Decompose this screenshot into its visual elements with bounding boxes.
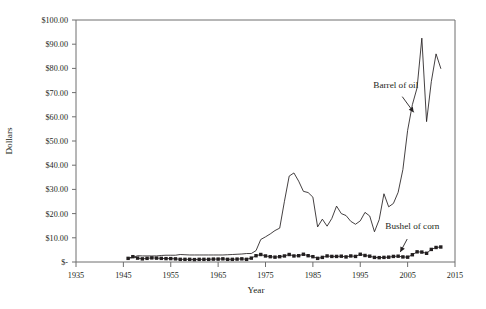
data-point-marker: [160, 257, 163, 260]
data-point-marker: [387, 255, 390, 258]
x-tick-label: 1995: [352, 271, 368, 280]
data-point-marker: [145, 257, 148, 260]
data-point-marker: [363, 254, 366, 257]
data-point-marker: [349, 254, 352, 257]
data-point-marker: [221, 257, 224, 260]
data-point-marker: [382, 256, 385, 259]
data-point-marker: [373, 256, 376, 259]
data-point-marker: [292, 254, 295, 257]
data-point-marker: [411, 253, 414, 256]
data-point-marker: [235, 257, 238, 260]
data-point-marker: [250, 256, 253, 259]
data-point-marker: [359, 253, 362, 256]
data-point-marker: [406, 255, 409, 258]
data-point-marker: [164, 257, 167, 260]
data-point-marker: [344, 255, 347, 258]
y-tick-label: $80.00: [45, 64, 68, 73]
data-point-marker: [273, 255, 276, 258]
data-point-marker: [340, 254, 343, 257]
data-point-marker: [430, 248, 433, 251]
data-point-marker: [420, 250, 423, 253]
data-point-marker: [354, 255, 357, 258]
data-point-marker: [316, 257, 319, 260]
data-point-marker: [126, 257, 129, 260]
y-axis-ticks: $-$10.00$20.00$30.00$40.00$50.00$60.00$7…: [41, 16, 76, 267]
data-point-marker: [240, 257, 243, 260]
data-point-marker: [439, 245, 442, 248]
data-point-marker: [207, 258, 210, 261]
x-tick-label: 2015: [447, 271, 463, 280]
y-tick-label: $40.00: [45, 161, 68, 170]
annotation-label: Bushel of corn: [385, 221, 439, 231]
data-point-marker: [188, 258, 191, 261]
data-point-marker: [378, 256, 381, 259]
data-point-marker: [434, 246, 437, 249]
data-point-marker: [425, 252, 428, 255]
data-point-marker: [216, 257, 219, 260]
data-point-marker: [245, 258, 248, 261]
y-tick-label: $30.00: [45, 185, 68, 194]
data-point-marker: [401, 255, 404, 258]
data-point-marker: [197, 258, 200, 261]
data-point-marker: [174, 257, 177, 260]
data-point-marker: [278, 255, 281, 258]
data-point-marker: [202, 258, 205, 261]
oil-vs-corn-price-chart: $-$10.00$20.00$30.00$40.00$50.00$60.00$7…: [0, 0, 486, 309]
annotation-label: Barrel of oil: [373, 80, 418, 90]
data-point-marker: [306, 254, 309, 257]
data-point-marker: [392, 255, 395, 258]
data-point-marker: [259, 253, 262, 256]
data-point-marker: [330, 255, 333, 258]
data-point-marker: [226, 258, 229, 261]
data-point-marker: [155, 256, 158, 259]
data-point-marker: [183, 258, 186, 261]
data-point-marker: [283, 254, 286, 257]
x-tick-label: 1985: [305, 271, 321, 280]
x-axis-title: Year: [248, 285, 265, 295]
x-axis-ticks: 193519451955196519751985199520052015: [68, 262, 463, 280]
y-tick-label: $60.00: [45, 113, 68, 122]
data-point-marker: [325, 254, 328, 257]
data-point-marker: [193, 258, 196, 261]
x-tick-label: 1965: [210, 271, 226, 280]
data-point-marker: [141, 257, 144, 260]
data-point-marker: [311, 255, 314, 258]
data-point-marker: [150, 256, 153, 259]
chart-container: $-$10.00$20.00$30.00$40.00$50.00$60.00$7…: [0, 0, 486, 309]
data-point-marker: [335, 255, 338, 258]
y-tick-label: $70.00: [45, 89, 68, 98]
y-tick-label: $-: [61, 258, 68, 267]
y-tick-label: $100.00: [41, 16, 68, 25]
data-point-marker: [287, 253, 290, 256]
data-point-marker: [415, 250, 418, 253]
y-tick-label: $50.00: [45, 137, 68, 146]
series-bushel-of-corn: [126, 245, 442, 261]
data-point-marker: [136, 256, 139, 259]
data-point-marker: [321, 256, 324, 259]
y-axis-title: Dollars: [4, 127, 14, 154]
chart-annotations: Barrel of oilBushel of corn: [373, 80, 439, 252]
data-point-marker: [368, 254, 371, 257]
x-tick-label: 1935: [68, 271, 84, 280]
x-tick-label: 1975: [257, 271, 273, 280]
x-tick-label: 2005: [399, 271, 415, 280]
data-point-marker: [179, 258, 182, 261]
data-point-marker: [231, 258, 234, 261]
data-point-marker: [131, 255, 134, 258]
data-point-marker: [297, 254, 300, 257]
data-point-marker: [302, 253, 305, 256]
data-point-marker: [212, 257, 215, 260]
y-tick-label: $20.00: [45, 210, 68, 219]
data-point-marker: [396, 254, 399, 257]
data-point-marker: [254, 254, 257, 257]
x-tick-label: 1945: [115, 271, 131, 280]
y-tick-label: $90.00: [45, 40, 68, 49]
data-point-marker: [269, 255, 272, 258]
data-point-marker: [169, 257, 172, 260]
data-point-marker: [264, 254, 267, 257]
y-tick-label: $10.00: [45, 234, 68, 243]
x-tick-label: 1955: [163, 271, 179, 280]
annotation-bushel-of-corn: Bushel of corn: [385, 221, 439, 252]
